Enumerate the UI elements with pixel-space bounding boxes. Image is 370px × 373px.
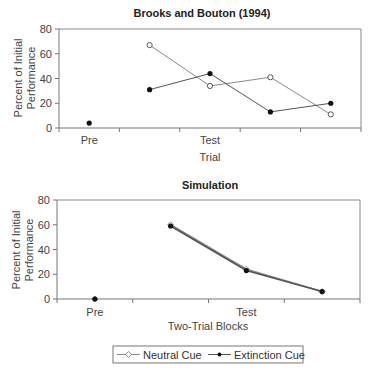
series-line-neutral-cue [171,225,323,292]
data-point-neutral-cue [207,83,212,88]
x-tick-label: Test [236,306,256,318]
series-line-neutral-cue [150,45,331,114]
data-point-extinction-cue [92,296,97,301]
y-axis-label: Percent of Initial Performance [12,39,37,118]
legend: Neutral Cue Extinction Cue [113,346,305,363]
legend-label-neutral: Neutral Cue [143,349,202,361]
y-tick-label: 0 [46,122,52,134]
chart-brooks-bouton: Brooks and Bouton (1994) Percent of Init… [12,7,361,163]
series-line-extinction-cue [150,74,331,112]
y-axis-label-line1: Percent of Initial [12,39,24,118]
x-axis-label: Trial [200,151,221,163]
data-point-extinction-cue [328,101,333,106]
data-point-neutral-cue [268,75,273,80]
data-point-neutral-cue [147,42,152,47]
y-axis-label-line1: Percent of Initial [10,211,22,290]
x-axis-label: Two-Trial Blocks [168,320,249,332]
y-tick-label: 20 [38,268,50,280]
x-tick-label: Pre [81,134,98,146]
y-tick-label: 80 [38,194,50,206]
y-tick-label: 0 [44,293,50,305]
data-point-extinction-cue [168,223,173,228]
y-tick-label: 80 [40,23,52,35]
y-tick-label: 60 [38,219,50,231]
data-point-extinction-cue [207,71,212,76]
x-tick-label: Test [200,134,220,146]
y-tick-label: 40 [40,73,52,85]
y-tick-label: 20 [40,97,52,109]
figure: Brooks and Bouton (1994) Percent of Init… [0,0,370,373]
y-tick-label: 60 [40,48,52,60]
data-point-extinction-cue [87,120,92,125]
data-point-extinction-cue [320,289,325,294]
data-point-extinction-cue [147,87,152,92]
series-line-extinction-cue [171,226,323,292]
legend-label-extinction: Extinction Cue [234,349,305,361]
x-tick-label: Pre [86,306,103,318]
y-axis-label-line2: Performance [23,219,35,282]
data-point-extinction-cue [268,109,273,114]
chart-title: Brooks and Bouton (1994) [134,7,271,19]
y-axis-label: Percent of Initial Performance [10,211,35,290]
data-point-extinction-cue [244,268,249,273]
y-axis-label-line2: Performance [25,47,37,110]
chart-title: Simulation [182,179,239,191]
filled-circle-marker-icon [218,353,222,357]
data-point-neutral-cue [328,112,333,117]
y-tick-label: 40 [38,244,50,256]
chart-simulation: Simulation Percent of Initial Performanc… [10,179,360,332]
